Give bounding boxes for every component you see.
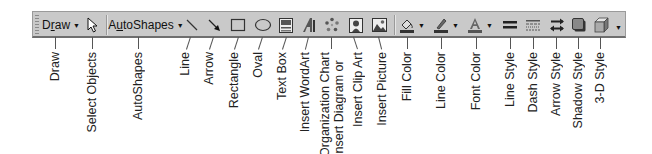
callout-shadow-style: Shadow Style	[572, 52, 585, 128]
callout-arrow: Arrow	[203, 52, 216, 85]
leader-line	[92, 37, 93, 49]
callout-arrow-style: Arrow Style	[550, 52, 563, 116]
dash-style-button[interactable]	[524, 14, 542, 36]
insert-wordart-icon	[302, 17, 316, 33]
leader-line	[138, 37, 139, 49]
leader-line	[578, 37, 579, 49]
callout-insert-clip-art: Insert Clip Art	[352, 52, 365, 127]
leader-line	[510, 37, 511, 49]
callout-autoshapes: AutoShapes	[132, 52, 145, 120]
arrow-icon	[207, 18, 221, 32]
oval-icon	[254, 18, 272, 32]
toolbar-options-chevron[interactable]: ▼	[615, 24, 622, 31]
rectangle-icon	[230, 18, 246, 32]
line-style-button[interactable]	[501, 14, 519, 36]
arrow-style-button[interactable]	[547, 14, 567, 36]
rectangle-button[interactable]	[229, 14, 247, 36]
insert-picture-icon	[372, 18, 387, 32]
leader-line	[441, 37, 442, 49]
3d-style-icon	[594, 17, 609, 33]
fill-color-button[interactable]: ▼	[399, 14, 425, 36]
insert-clip-art-icon	[349, 18, 363, 33]
callout-insert-picture: Insert Picture	[376, 52, 389, 126]
insert-clip-art-button[interactable]	[347, 14, 365, 36]
leader-line	[186, 37, 191, 50]
select-objects-button[interactable]	[84, 14, 102, 36]
leader-line	[55, 37, 56, 49]
autoshapes-menu-button[interactable]: AutoShapes ▼	[112, 14, 180, 36]
leader-line	[600, 37, 601, 49]
leader-line	[282, 37, 287, 50]
leader-line	[209, 37, 214, 50]
callout-rectangle: Rectangle	[228, 52, 241, 108]
leader-line	[305, 37, 309, 50]
font-color-button[interactable]: ▼	[466, 14, 494, 36]
callout-text-box: Text Box	[276, 52, 289, 100]
callout-draw: Draw	[49, 52, 62, 81]
callout-dash-style: Dash Style	[527, 52, 540, 112]
chevron-down-icon[interactable]: ▼	[486, 22, 493, 29]
callout-insert-diagram: Organization ChartInsert Diagram or	[318, 52, 346, 154]
3d-style-button[interactable]	[592, 14, 610, 36]
callout-insert-wordart: Insert WordArt	[299, 52, 312, 132]
select-objects-icon	[87, 17, 99, 33]
leader-line	[353, 37, 358, 50]
chevron-down-icon[interactable]: ▼	[452, 22, 459, 29]
leader-line	[407, 37, 408, 49]
line-style-icon	[502, 19, 518, 31]
callout-font-color: Font Color	[470, 52, 483, 110]
toolbar-gripper[interactable]	[35, 15, 39, 34]
leader-line	[476, 37, 477, 49]
fill-color-icon	[399, 17, 415, 33]
line-button[interactable]	[183, 14, 201, 36]
drawing-toolbar: Draw ▼ AutoShapes ▼ ▼ ▼	[32, 11, 626, 38]
callout-line-style: Line Style	[504, 52, 517, 107]
chevron-down-icon[interactable]: ▼	[418, 22, 425, 29]
draw-menu-button[interactable]: Draw ▼	[43, 14, 79, 36]
leader-line	[556, 37, 557, 49]
callout-select-objects: Select Objects	[86, 52, 99, 133]
arrow-button[interactable]	[205, 14, 223, 36]
callout-line: Line	[179, 52, 192, 76]
callout-3d-style: 3-D Style	[594, 52, 607, 103]
toolbar-separator	[394, 15, 396, 35]
shadow-style-icon	[572, 18, 586, 32]
chevron-down-icon: ▼	[73, 22, 80, 29]
oval-button[interactable]	[253, 14, 273, 36]
insert-wordart-button[interactable]	[300, 14, 318, 36]
insert-picture-button[interactable]	[370, 14, 388, 36]
font-color-icon	[467, 17, 483, 33]
leader-line	[234, 37, 239, 50]
line-color-button[interactable]: ▼	[432, 14, 460, 36]
insert-diagram-icon	[324, 17, 340, 33]
line-color-icon	[433, 17, 449, 33]
leader-line	[331, 37, 332, 49]
callout-line-color: Line Color	[435, 52, 448, 109]
arrow-style-icon	[549, 18, 565, 32]
text-box-button[interactable]	[277, 14, 295, 36]
leader-line	[378, 37, 382, 50]
text-box-icon	[279, 18, 293, 33]
insert-diagram-button[interactable]	[323, 14, 341, 36]
callout-oval: Oval	[252, 52, 265, 78]
line-icon	[185, 18, 199, 32]
dash-style-icon	[525, 19, 541, 31]
callout-fill-color: Fill Color	[401, 52, 414, 101]
leader-line	[533, 37, 534, 49]
leader-line	[258, 37, 263, 50]
shadow-style-button[interactable]	[570, 14, 588, 36]
